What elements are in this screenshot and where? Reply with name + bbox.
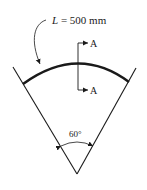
angle-label: 60° <box>69 129 82 139</box>
length-leader-arrow <box>34 20 46 64</box>
angle-arc <box>61 142 93 146</box>
section-label-top: A <box>90 38 98 49</box>
length-label: L = 500 mm <box>51 14 107 26</box>
right-radial-line <box>77 68 136 174</box>
curved-beam-arc <box>23 63 129 84</box>
section-label-bottom: A <box>90 85 98 96</box>
curved-beam-diagram: L = 500 mm A A 60° <box>0 0 147 190</box>
